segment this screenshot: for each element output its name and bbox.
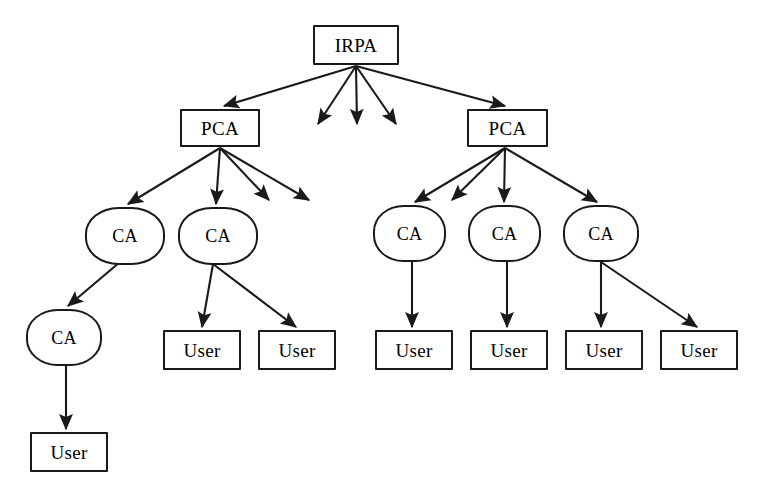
node-label-user-l2: User xyxy=(278,341,315,360)
node-ca-r3[interactable]: CA xyxy=(563,205,639,262)
edge-ca-r3-to-user-r4 xyxy=(601,262,697,327)
node-pca-l[interactable]: PCA xyxy=(180,109,260,147)
node-user-r1[interactable]: User xyxy=(375,330,453,370)
edge-pca-r-to-ca-r3 xyxy=(505,148,597,202)
edge-irpa-to-pca-l xyxy=(224,66,356,106)
node-label-user-r3: User xyxy=(585,341,622,360)
node-label-pca-r: PCA xyxy=(489,119,527,138)
hierarchy-diagram: IRPAPCAPCACACACACACACAUserUserUserUserUs… xyxy=(0,0,761,495)
edge-irpa-dangling-3 xyxy=(356,66,357,124)
node-label-ca-r1: CA xyxy=(397,225,423,243)
edge-pca-l-dangling-7 xyxy=(220,148,269,200)
edge-pca-r-to-ca-r2 xyxy=(504,148,505,202)
node-ca-l2[interactable]: CA xyxy=(178,207,258,265)
node-ca-l1[interactable]: CA xyxy=(85,207,165,265)
node-label-ca-l1: CA xyxy=(112,227,138,245)
node-ca-l3[interactable]: CA xyxy=(26,309,102,366)
edge-ca-l2-to-user-l1 xyxy=(202,264,213,327)
node-user-r3[interactable]: User xyxy=(565,330,643,370)
node-label-user-r2: User xyxy=(490,341,527,360)
edge-pca-l-to-ca-l1 xyxy=(128,148,220,204)
node-pca-r[interactable]: PCA xyxy=(467,109,548,147)
node-label-pca-l: PCA xyxy=(201,119,239,138)
node-user-r2[interactable]: User xyxy=(470,330,548,370)
node-irpa[interactable]: IRPA xyxy=(313,25,399,65)
edge-ca-l1-to-ca-l3 xyxy=(68,262,120,306)
node-user-l1[interactable]: User xyxy=(163,330,241,370)
node-label-user-r4: User xyxy=(680,341,717,360)
edge-pca-r-to-ca-r1 xyxy=(415,148,505,202)
edge-pca-l-dangling-8 xyxy=(220,148,309,200)
node-label-user-r1: User xyxy=(395,341,432,360)
node-ca-r1[interactable]: CA xyxy=(373,205,446,262)
edge-ca-l2-to-user-l2 xyxy=(213,264,296,327)
node-label-ca-r3: CA xyxy=(588,225,614,243)
node-ca-r2[interactable]: CA xyxy=(468,205,541,262)
node-label-irpa: IRPA xyxy=(335,36,378,55)
node-label-user-l1: User xyxy=(183,341,220,360)
node-label-user-b1: User xyxy=(50,443,87,462)
node-label-ca-r2: CA xyxy=(492,225,518,243)
node-user-b1[interactable]: User xyxy=(30,432,108,472)
edge-pca-l-to-ca-l2 xyxy=(216,148,220,204)
node-label-ca-l2: CA xyxy=(205,227,231,245)
node-user-l2[interactable]: User xyxy=(258,330,336,370)
node-user-r4[interactable]: User xyxy=(660,330,738,370)
node-label-ca-l3: CA xyxy=(51,329,77,347)
